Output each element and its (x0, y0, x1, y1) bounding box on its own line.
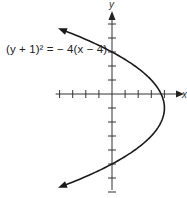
y-axis-label: y (109, 0, 114, 10)
parabola-chart (0, 0, 187, 198)
x-axis (56, 90, 184, 98)
equation-label: (y + 1)² = − 4(x − 4) (6, 43, 107, 55)
x-axis-label: x (182, 89, 187, 100)
